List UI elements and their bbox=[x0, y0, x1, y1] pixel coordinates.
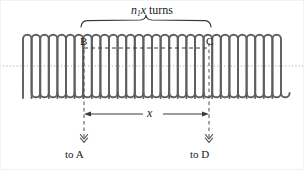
dimension-arrow-right bbox=[202, 112, 209, 117]
solenoid-figure: n1x turns B C x to A to D bbox=[0, 0, 304, 170]
point-label-c: C bbox=[206, 36, 213, 47]
point-label-b: B bbox=[80, 36, 87, 47]
terminal-label-to-d: to D bbox=[190, 149, 209, 160]
figure-canvas bbox=[1, 1, 304, 170]
dimension-label-x: x bbox=[147, 107, 152, 119]
turns-label: n1x turns bbox=[1, 4, 303, 18]
dimension-arrow-left bbox=[84, 112, 91, 117]
terminal-label-to-a: to A bbox=[65, 149, 84, 160]
turns-label-suffix: turns bbox=[146, 3, 173, 17]
